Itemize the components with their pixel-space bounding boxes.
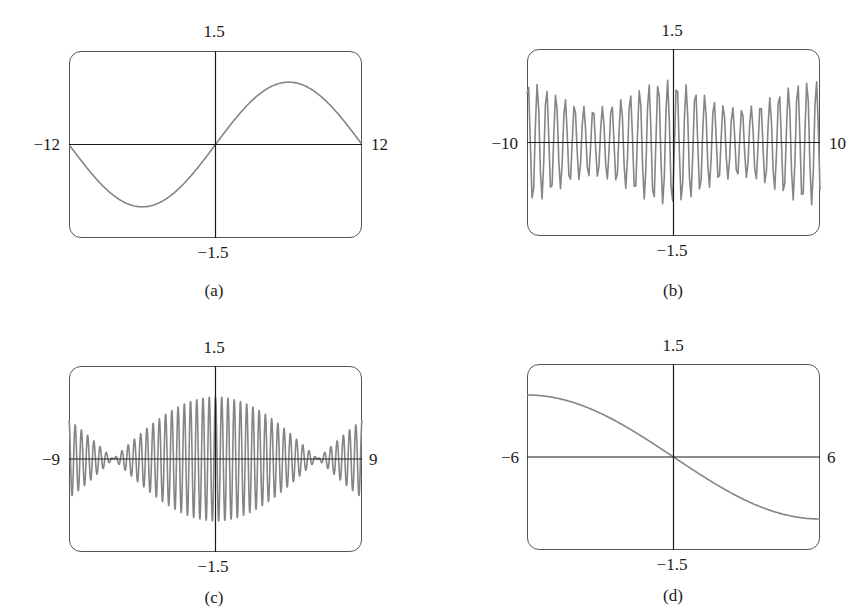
y-min-label-d: −1.5 xyxy=(657,556,688,573)
x-max-label-d: 6 xyxy=(827,449,836,466)
y-max-label-d: 1.5 xyxy=(662,337,683,354)
caption-d: (d) xyxy=(663,587,683,604)
plot-area-d xyxy=(0,0,857,614)
x-min-label-d: −6 xyxy=(501,449,519,466)
